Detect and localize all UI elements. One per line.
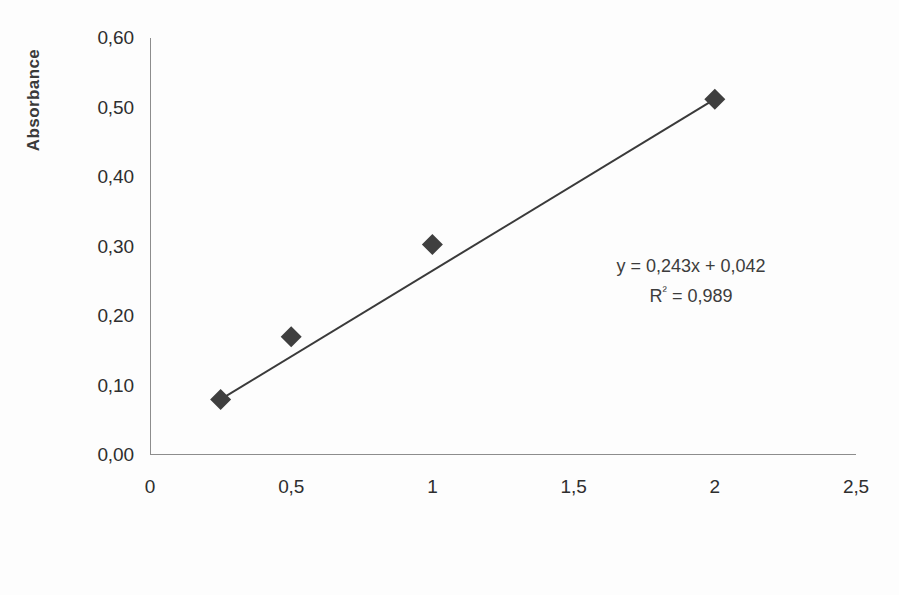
trendline-equation-annotation: y = 0,243x + 0,042 R² = 0,989 [560, 253, 822, 311]
y-axis-tick-label: 0,30 [68, 236, 134, 258]
plot-area [150, 38, 856, 455]
x-axis-tick-label: 0,5 [256, 476, 326, 498]
y-axis-tick-label: 0,10 [68, 375, 134, 397]
x-axis-tick-label: 0 [115, 476, 185, 498]
data-layer [150, 38, 856, 455]
x-axis-tick-label: 1 [397, 476, 467, 498]
y-axis-tick-label: 0,40 [68, 166, 134, 188]
x-axis-tick-label: 2,5 [821, 476, 891, 498]
y-axis-tick-label: 0,00 [68, 444, 134, 466]
x-axis-tick-label: 2 [680, 476, 750, 498]
x-axis-tick-label: 1,5 [539, 476, 609, 498]
y-axis-tick-label: 0,60 [68, 27, 134, 49]
regression-equation-text: y = 0,243x + 0,042 [560, 253, 822, 281]
data-point-marker [704, 89, 725, 110]
r-squared-text: R² = 0,989 [560, 281, 822, 311]
r-squared-label: R [650, 286, 663, 306]
absorbance-calibration-chart: Absorbance 0,000,100,200,300,400,500,60 … [0, 0, 899, 595]
y-axis-tick-labels: 0,000,100,200,300,400,500,60 [62, 0, 134, 595]
y-axis-title: Absorbance [14, 0, 54, 200]
r-squared-value: = 0,989 [667, 286, 733, 306]
data-point-marker [210, 389, 231, 410]
trendline [221, 99, 715, 399]
data-point-marker [422, 234, 443, 255]
data-point-marker [281, 326, 302, 347]
y-axis-tick-label: 0,50 [68, 97, 134, 119]
y-axis-tick-label: 0,20 [68, 305, 134, 327]
